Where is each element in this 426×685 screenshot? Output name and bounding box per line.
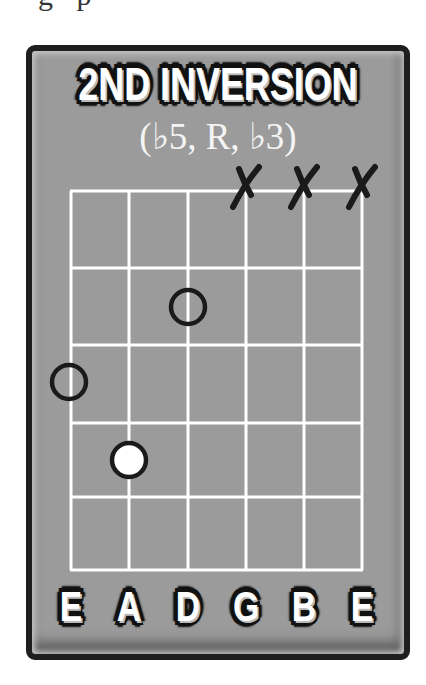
string-label-a-1: A (111, 580, 146, 634)
note-open-circle-icon (52, 365, 86, 399)
root-note-filled-circle-icon (112, 443, 146, 477)
grid-lines (70, 191, 363, 570)
string-label-e-0: E (53, 580, 88, 634)
string-label-e-5: E (344, 580, 379, 634)
string-label-b-4: B (286, 580, 321, 634)
string-label-d-2: D (170, 580, 205, 634)
string-label-g-3: G (228, 580, 263, 634)
